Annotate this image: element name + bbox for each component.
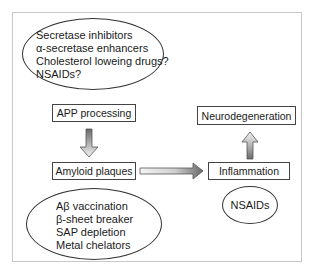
intervention-metal-chelators: Metal chelators: [56, 239, 133, 252]
nsaids-label: NSAIDs: [222, 186, 278, 224]
arrow-up-inflammation-to-neurodegeneration: [242, 132, 258, 159]
bottom-interventions-list: Aβ vaccination β-sheet breaker SAP deple…: [56, 200, 133, 252]
intervention-beta-sheet-breaker: β-sheet breaker: [56, 213, 133, 226]
intervention-sap-depletion: SAP depletion: [56, 226, 133, 239]
intervention-abeta-vaccination: Aβ vaccination: [56, 200, 133, 213]
arrow-right-amyloid-to-inflammation: [140, 163, 203, 179]
arrow-down-app-to-amyloid: [80, 129, 98, 157]
